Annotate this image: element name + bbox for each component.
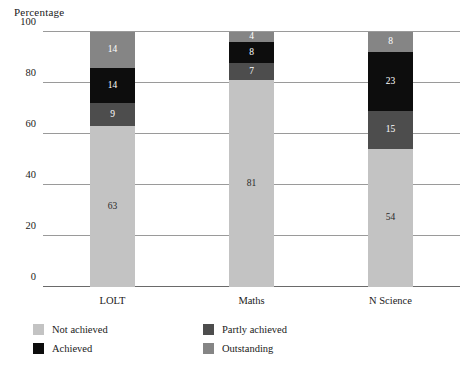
bar-segment-value: 54: [386, 213, 396, 223]
y-axis-tick-label: 40: [26, 169, 37, 180]
bar-segment-value: 14: [108, 81, 118, 91]
bar-segment-value: 8: [249, 48, 254, 58]
y-axis-tick-label: 0: [31, 271, 36, 282]
plot-area: 0204060801001414963LOLT48781Maths8231554…: [43, 32, 460, 287]
legend-label: Partly achieved: [222, 324, 287, 335]
bar-segment-value: 23: [386, 77, 396, 87]
bar-segment[interactable]: 4: [229, 32, 274, 42]
bar-segment[interactable]: 81: [229, 80, 274, 287]
chart-legend: Not achievedPartly achievedAchievedOutst…: [33, 320, 453, 358]
bar-segment[interactable]: 15: [368, 111, 413, 149]
bar-segment[interactable]: 14: [90, 68, 135, 104]
bar-segment-value: 4: [249, 32, 254, 42]
legend-item[interactable]: Not achieved: [33, 320, 181, 339]
bar-segment-value: 15: [386, 125, 396, 135]
bar-segment-value: 81: [247, 179, 257, 189]
bar-lolt[interactable]: 1414963LOLT: [90, 32, 135, 287]
legend-item[interactable]: Achieved: [33, 339, 181, 358]
bar-segment-value: 14: [108, 45, 118, 55]
bar-maths[interactable]: 48781Maths: [229, 32, 274, 287]
legend-label: Outstanding: [222, 343, 273, 354]
legend-label: Achieved: [52, 343, 92, 354]
bar-n-science[interactable]: 8231554N Science: [368, 32, 413, 287]
x-axis-category-label: N Science: [331, 295, 451, 306]
bar-segment-value: 7: [249, 67, 254, 77]
bar-segment[interactable]: 23: [368, 52, 413, 111]
legend-item[interactable]: Outstanding: [203, 339, 453, 358]
y-axis-tick-label: 80: [26, 67, 37, 78]
y-axis-tick-label: 20: [26, 220, 37, 231]
stacked-bar-chart: Percentage 0204060801001414963LOLT48781M…: [0, 0, 474, 367]
legend-swatch: [33, 324, 44, 335]
bar-segment[interactable]: 8: [229, 42, 274, 62]
bar-segment-value: 8: [388, 37, 393, 47]
legend-swatch: [203, 343, 214, 354]
bar-segment-value: 63: [108, 202, 118, 212]
y-axis-tick-label: 100: [20, 16, 36, 27]
legend-item[interactable]: Partly achieved: [203, 320, 453, 339]
x-axis-category-label: Maths: [192, 295, 312, 306]
bar-segment[interactable]: 9: [90, 103, 135, 126]
y-axis-tick-label: 60: [26, 118, 37, 129]
legend-swatch: [203, 324, 214, 335]
legend-swatch: [33, 343, 44, 354]
bar-segment[interactable]: 14: [90, 32, 135, 68]
bar-segment[interactable]: 63: [90, 126, 135, 287]
legend-label: Not achieved: [52, 324, 108, 335]
bar-segment[interactable]: 8: [368, 32, 413, 52]
bar-segment[interactable]: 7: [229, 63, 274, 81]
bar-segment-value: 9: [110, 110, 115, 120]
bar-segment[interactable]: 54: [368, 149, 413, 287]
x-axis-category-label: LOLT: [53, 295, 173, 306]
